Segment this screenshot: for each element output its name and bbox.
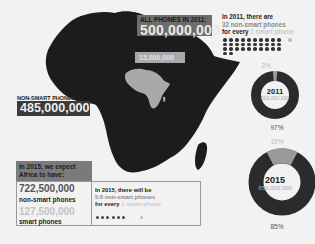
non-smart-phone-dot [241, 43, 245, 47]
non-smart-phone-dot [253, 47, 257, 51]
ratio-2015-line2: 5.6 non-smart phones [95, 194, 200, 201]
non-smart-phone-dot [241, 47, 245, 51]
non-smart-phone-dot [117, 216, 120, 219]
forecast-non-smart-value: 722,500,000 [19, 183, 75, 194]
ratio-2011-text: In 2011, there are 32 non-smart phones f… [222, 13, 314, 36]
non-smart-phone-dot [235, 43, 239, 47]
non-smart-phone-dot [122, 216, 125, 219]
non-smart-phone-dot [106, 216, 109, 219]
smart-phones-2011-box: 15,000,000 [135, 52, 185, 63]
non-smart-phone-dot [101, 216, 104, 219]
non-smart-phone-dot [271, 47, 275, 51]
ratio-2015-line1: In 2015, there will be [95, 187, 200, 194]
non-smart-phone-dot [235, 47, 239, 51]
non-smart-phone-dot [253, 38, 257, 42]
forecast-non-smart-label: non-smart phones [19, 196, 76, 203]
forecast-2015-header: In 2015, we expect Africa to have: [16, 161, 92, 181]
non-smart-phone-dot [259, 38, 263, 42]
non-smart-phone-dot [247, 43, 251, 47]
ratio-2015-text: In 2015, there will be 5.6 non-smart pho… [95, 187, 200, 208]
smart-phones-2011-value: 15,000,000 [135, 52, 185, 63]
panel-divider [91, 181, 92, 226]
non-smart-phone-dot [229, 47, 233, 51]
forecast-header-line2: Africa to have: [19, 171, 89, 179]
non-smart-phone-dot [259, 47, 263, 51]
non-smart-phone-dot [223, 47, 227, 51]
non-smart-phone-dot [265, 47, 269, 51]
forecast-smart-value: 127,500,000 [19, 206, 75, 217]
non-smart-phone-dot [277, 43, 281, 47]
non-smart-phone-dot [271, 43, 275, 47]
non-smart-phone-dot [229, 43, 233, 47]
non-smart-phone-dot [265, 38, 269, 42]
non-smart-phone-dot [253, 43, 257, 47]
non-smart-phone-dot [112, 216, 115, 219]
non-smart-phone-dot [277, 47, 281, 51]
non-smart-value: 485,000,000 [17, 101, 90, 116]
smart-phone-dot-2011 [288, 38, 292, 42]
non-smart-phone-dot [277, 38, 281, 42]
donut-2011-non-smart-pct: 97% [262, 124, 292, 131]
smart-phone-dot-2015 [140, 216, 143, 219]
non-smart-phone-dot [223, 52, 227, 56]
non-smart-phone-dot [235, 38, 239, 42]
donut-2011-smart-pct: 3% [251, 62, 281, 69]
non-smart-phone-dot [259, 43, 263, 47]
donut-2015-year: 2015 [247, 175, 303, 185]
non-smart-phone-dot [96, 216, 99, 219]
non-smart-phone-dot [223, 38, 227, 42]
non-smart-phone-dot [229, 38, 233, 42]
ratio-2011-line2: 32 non-smart phones [222, 21, 314, 29]
non-smart-phone-dot [223, 43, 227, 47]
all-phones-2011-box: ALL PHONES IN 2011: 500,000,000 [137, 15, 212, 36]
donut-2011-total: 500,000,000 [250, 95, 300, 101]
forecast-smart-label: smart phones [19, 218, 62, 225]
ratio-2011-for-every: for every [222, 28, 249, 35]
ratio-2015-for-every: for every [95, 201, 120, 207]
non-smart-phone-dot [229, 52, 233, 56]
ratio-2011-smart: 1 smart phone [250, 28, 293, 35]
non-smart-phone-dot [241, 38, 245, 42]
forecast-header-line1: In 2015, we expect [19, 163, 89, 171]
donut-2015-non-smart-pct: 85% [262, 223, 292, 230]
ratio-2011-line1: In 2011, there are [222, 13, 314, 21]
non-smart-phone-dot [271, 38, 275, 42]
dot-row-2015 [96, 216, 125, 219]
non-smart-phone-dot [247, 47, 251, 51]
non-smart-phone-dot [265, 43, 269, 47]
dot-grid-2011 [223, 38, 283, 56]
donut-2015-total: 850,000,000 [247, 185, 303, 191]
all-phones-value: 500,000,000 [140, 23, 209, 38]
non-smart-phone-dot [247, 38, 251, 42]
donut-2015-smart-pct: 15% [262, 138, 292, 145]
ratio-2015-smart: 1 smart phone [121, 201, 161, 207]
